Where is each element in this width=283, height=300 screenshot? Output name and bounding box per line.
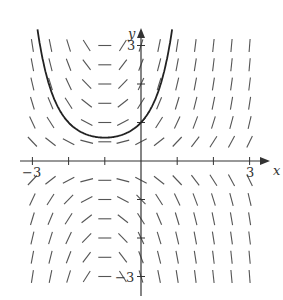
- slope-segment: [174, 117, 180, 129]
- y-tick-label-max: 3: [127, 38, 135, 53]
- slope-segment: [213, 58, 215, 71]
- slope-segment: [176, 251, 178, 264]
- slope-segment: [49, 39, 52, 52]
- slope-segment: [156, 194, 163, 205]
- slope-segment: [231, 251, 232, 264]
- slope-segment: [191, 175, 199, 185]
- slope-segment: [228, 136, 234, 148]
- slope-segment: [213, 270, 214, 283]
- slope-segment: [31, 58, 33, 71]
- x-axis-label: x: [273, 163, 281, 178]
- y-axis-arrow-icon: [137, 28, 145, 38]
- slope-segment: [31, 97, 35, 110]
- slope-segment: [176, 232, 179, 245]
- slope-segment: [210, 175, 217, 186]
- slope-segment: [212, 193, 216, 205]
- slope-segment: [231, 58, 232, 71]
- slope-segment: [63, 177, 74, 183]
- slope-segment: [45, 138, 55, 146]
- slope-field-plot: x y −3 3 3 −3: [0, 0, 283, 300]
- slope-segment: [176, 270, 178, 283]
- slope-segment: [119, 60, 127, 70]
- slope-segment: [176, 39, 178, 52]
- x-tick-label-max: 3: [246, 165, 254, 180]
- slope-segment: [49, 232, 53, 244]
- x-axis-arrow-icon: [260, 157, 270, 165]
- slope-segment: [247, 136, 253, 148]
- slope-segment: [48, 97, 53, 109]
- x-tick-label-min: −3: [22, 165, 41, 180]
- slope-segment: [194, 58, 196, 71]
- slope-segment: [154, 138, 164, 146]
- slope-segment: [158, 251, 161, 264]
- slope-segment: [175, 97, 179, 110]
- slope-segment: [66, 78, 72, 90]
- slope-segment: [30, 117, 36, 129]
- slope-segment: [157, 213, 162, 225]
- slope-segment: [228, 175, 234, 187]
- slope-segment: [118, 215, 128, 223]
- slope-segment: [157, 97, 162, 109]
- slope-segment: [49, 58, 52, 71]
- slope-segment: [31, 232, 34, 245]
- slope-segment: [154, 176, 164, 184]
- slope-segment: [49, 270, 52, 283]
- slope-segment: [47, 117, 54, 128]
- slope-segment: [176, 58, 178, 71]
- slope-segment: [194, 232, 196, 245]
- slope-segment: [230, 97, 232, 110]
- slope-segment: [82, 215, 92, 223]
- slope-segment: [31, 39, 33, 52]
- slope-field-diagram: x y −3 3 3 −3: [0, 0, 283, 300]
- slope-segment: [63, 139, 74, 145]
- slope-segment: [231, 270, 232, 283]
- slope-segment: [249, 97, 251, 110]
- slope-segment: [117, 179, 130, 182]
- slope-segment: [249, 58, 250, 71]
- slope-segment: [119, 40, 126, 51]
- slope-segment: [65, 98, 72, 109]
- slope-segment: [193, 116, 198, 128]
- slope-segment: [83, 252, 91, 262]
- slope-segment: [249, 251, 250, 264]
- slope-segment: [67, 39, 71, 51]
- slope-segment: [249, 39, 250, 52]
- slope-segment: [80, 140, 93, 143]
- slope-segment: [176, 78, 179, 91]
- slope-segment: [45, 176, 55, 184]
- slope-segment: [194, 251, 196, 264]
- slope-segment: [249, 78, 251, 91]
- slope-segment: [230, 212, 232, 225]
- slope-segment: [119, 252, 127, 262]
- slope-segment: [249, 232, 251, 245]
- slope-segment: [83, 40, 90, 51]
- slope-segment: [213, 39, 214, 52]
- slope-segment: [81, 196, 92, 202]
- slope-segment: [31, 78, 34, 91]
- slope-segment: [193, 193, 198, 205]
- slope-segment: [158, 39, 161, 52]
- slope-segment: [173, 176, 182, 186]
- slope-segment: [194, 78, 196, 91]
- slope-segment: [212, 78, 214, 91]
- slope-segment: [118, 79, 127, 88]
- slope-segment: [175, 213, 179, 226]
- slope-segment: [66, 59, 71, 71]
- slope-segment: [82, 79, 91, 88]
- slope-segment: [212, 116, 216, 128]
- slope-segment: [118, 99, 128, 107]
- slope-segment: [47, 194, 54, 205]
- slope-segment: [31, 270, 33, 283]
- slope-segment: [67, 270, 71, 282]
- slope-segment: [195, 39, 197, 52]
- slope-segment: [31, 213, 35, 226]
- slope-segment: [213, 251, 215, 264]
- slope-segment: [80, 179, 93, 182]
- slope-segment: [191, 137, 199, 147]
- slope-segment: [231, 78, 233, 91]
- slope-segment: [81, 119, 92, 125]
- slope-segment: [249, 212, 251, 225]
- slope-segment: [230, 116, 233, 129]
- slope-segment: [83, 60, 91, 70]
- slope-segment: [156, 117, 163, 128]
